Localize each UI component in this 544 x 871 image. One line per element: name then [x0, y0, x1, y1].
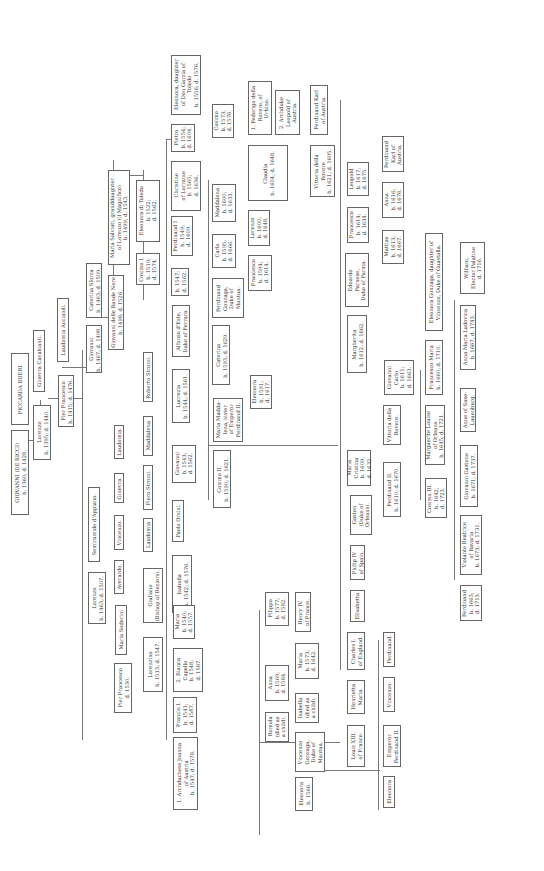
person-henrietta-maria: Henrietta Maria.	[347, 680, 365, 714]
person-paolo-orsini: Paolo Orsini.	[172, 500, 184, 542]
person-lucrezia: Lucrezia b. 1544; d. 1561.	[172, 369, 190, 423]
person-elisabetta: Elisabetta	[350, 590, 365, 622]
person-anna-1569: Anna b. 1569; d. 1584.	[265, 665, 289, 701]
connector	[259, 610, 260, 835]
person-eleonora-1591: Eleonora b. 1591; d. 1617.	[250, 375, 272, 409]
person-francis-1: Francis I. b. 1541; d. 1587.	[173, 697, 197, 733]
person-maddalena-1600: Maddalena b. 1600; d. 1633.	[212, 184, 236, 222]
connector	[208, 180, 209, 500]
connector	[82, 350, 83, 740]
person-vincenzo: Vincenzo.	[114, 515, 124, 550]
person-christine-lorraine: Christine of Lorraine b. 1565; d. 1636.	[171, 161, 201, 211]
person-ferdinand-gonzaga: Ferdinand Gonzaga, Duke of Mantua.	[212, 278, 244, 318]
person-francesco-maria: Francesco Maria b. 1660; d. 1710.	[425, 340, 443, 395]
person-giovanni-carlo: Giovanni Carlo b. 1611; d. 1663.	[384, 360, 414, 395]
person-roberto-strozzi: Roberto Strozzi.	[143, 352, 153, 402]
person-caterina-sforza: Caterina Sforza b. 1463; d. 1509.	[86, 263, 102, 318]
person-filippo: Filippo b. 1577; d. 1582.	[265, 592, 289, 626]
person-edoardo-farnese: Edoardo Farnese, Duke of Parma.	[345, 253, 369, 307]
person-pier-francesco-1530: Pier Francesco d. 1530.	[114, 663, 132, 713]
person-vincenzo-2: Vincenzo.	[383, 677, 395, 712]
person-piero-strozzi: Piero Strozzi.	[143, 465, 153, 510]
person-maria-cristina: Maria Cristina b. 1609; d. 1632.	[347, 450, 371, 486]
connector	[208, 445, 338, 446]
connector	[166, 140, 167, 740]
person-giovanni-1467: Giovanni b. 1467; d. 1498.	[86, 325, 102, 373]
person-gaston: Gaston (Duke of Orleans).	[350, 495, 372, 535]
person-charles-1: Charles I. of England.	[347, 632, 365, 670]
person-giovanni-bande-nere: Giovanni delle Bande Nere b. 1498; d. 15…	[108, 275, 124, 350]
person-pier-francesco-1415: Pier Francesco b. 1415; d. 1476.	[58, 375, 74, 427]
person-leopold-austria: 2. Archduke Leopold of Austria.	[275, 90, 300, 135]
person-philip-4: Philip IV of Spain.	[350, 545, 365, 580]
person-vittoria-rovere-2: Vittoria della Rovere.	[383, 405, 401, 445]
person-mattias: Mattias b. 1613; d. 1667.	[382, 230, 404, 264]
connector	[378, 640, 379, 810]
person-federigo-rovere: 1. Federigo della Rovere, of Urbino.	[248, 81, 272, 135]
person-lorenzo-1600: Lorenzo b. 1600; d. 1648.	[248, 210, 270, 246]
person-caterina-1593: Caterina b. 1593; d. 1629.	[212, 325, 230, 385]
person-emperor-ferdinand-2: Emperor Ferdinand II.	[383, 725, 401, 767]
person-maddalena: Maddalena	[143, 416, 153, 456]
person-ferdinand-2: Ferdinand II. b. 1610; d. 1670.	[383, 462, 401, 517]
person-isabella-child: Isabella (died as a child).	[295, 693, 319, 723]
person-violante: Violante Beatrice of Bavaria b. 1673; d.…	[460, 515, 482, 575]
person-claudia: Claudia b. 1604; d. 1648.	[248, 145, 288, 201]
person-lorenzo-1463: Lorenzo b. 1463; d. 1507.	[88, 572, 106, 624]
person-joanna-austria: 1. Archduchess Joanna of Austria b. 1547…	[173, 737, 198, 810]
person-bianca-capello: 2. Bianca Capello b. 1548; d. 1587.	[173, 648, 203, 692]
person-ferdinand-1: Ferdinand I b. 1549; d. 1609.	[171, 216, 193, 256]
person-piccarda: PICCARDA BUERI.	[11, 353, 29, 425]
person-pietro: Pietro b. 1554; d. 1604.	[171, 124, 195, 152]
person-semiramide: Semiramide d'Appiano.	[88, 487, 100, 562]
person-eleonora-2: Eleonora	[383, 776, 395, 808]
person-maria-1540: Maria b. 1540; d. 1557.	[173, 605, 195, 639]
person-leopold-1617: Leopold b. 1617; d. 1675.	[347, 162, 369, 196]
connector	[62, 367, 82, 368]
person-romola: Romola (died as a child).	[265, 712, 289, 742]
person-alfonso-este: Alfonso d'Este, Duke of Ferrara.	[172, 305, 190, 357]
person-laudomia-2: Laudomia.	[114, 425, 124, 459]
person-maria-maddalena: Maria Madda- lena, sister of Emperor Fer…	[213, 398, 243, 442]
person-vittoria-rovere-1621: Vittoria della Rovere b. 1621; d. 1695.	[310, 145, 335, 197]
connector	[454, 300, 455, 580]
person-eleonora-toledo: Eleonora di Toledo b. 1522; d. 1562.	[136, 180, 160, 242]
person-cosimo-2: Cosimo II. b. 1590; d. 1621.	[213, 450, 231, 508]
person-gian-gastone: Giovanni Gastone b. 1671; d. 1737.	[460, 445, 478, 507]
person-margherita: Margherita b. 1612; d. 1662.	[347, 315, 367, 373]
person-lorenzino: Lorenzino b. 1513; d. 1547.	[143, 637, 163, 692]
person-laudomia-acciaioli: Laudomia Acciaioli.	[57, 298, 69, 362]
person-ferdinand-1663: Ferdinand b. 1663; d. 1713.	[460, 585, 482, 621]
person-ginevra: Ginevra.	[114, 473, 124, 503]
person-maria-salviati: Maria Salviati, granddaughter of Lorenzo…	[108, 170, 130, 265]
person-marie: Maria b. 1573; d. 1642.	[295, 643, 319, 679]
person-vincenzo-gonzaga: Vincenzo Gonzaga, Duke of Mantua.	[295, 732, 325, 772]
person-francesco-1594: Francesco b. 1594; d. 1614.	[248, 255, 272, 291]
person-ferdinand: Ferdinand.	[383, 632, 395, 667]
person-giuliano: Giuliano (Bishop of Beziers).	[143, 568, 163, 623]
person-henry-4: Henry IV. of France.	[295, 592, 311, 632]
person-cosimo-1: Cosimo I. b. 1519; d. 1574.	[136, 253, 160, 285]
person-ginevra-cavalcanti: Ginevra Cavalcanti.	[33, 330, 45, 392]
person-louis-13: Louis XIII. of France.	[347, 725, 365, 767]
connector	[420, 370, 421, 500]
person-cosimo-1573: Cosimo b. 1573; d. 1576.	[212, 104, 234, 138]
person-laudomia-1: Laudomia	[143, 518, 153, 552]
person-eleonora-1566: Eleonora b. 1566.	[295, 777, 313, 811]
person-anna-maria-ludovica: Anna Maria Ludovica b. 1667; d. 1743.	[460, 305, 476, 370]
person-eleonora-gonzaga: Eleonora Gonzaga, daughter of Vincenzo, …	[425, 233, 443, 331]
person-maria-soderini: Maria Soderini	[115, 605, 127, 655]
person-anna-1616: Anna b. 1616; d. 1676.	[382, 182, 404, 218]
person-ferdinand-karl-1: Ferdinand Karl of Austria.	[310, 85, 328, 135]
person-carlo: Carlo b. 1595; d. 1666.	[212, 234, 236, 268]
person-cosimo-3: Cosimo III. b. 1642; d. 1723.	[425, 478, 447, 518]
person-giovanni-1543: Giovanni b. 1543; d. 1562.	[172, 445, 196, 483]
person-averardo: Averardo.	[114, 560, 124, 594]
person-william-palatine: William, Elector Palatine d. 1716.	[460, 242, 485, 294]
person-child-1547: b. 1547; d. 1562.	[171, 268, 189, 296]
person-anne-saxe: Anne of Saxe- Lauenburg.	[460, 388, 476, 432]
person-francesco-1614: Francesco b. 1614; d. 1634.	[347, 207, 369, 243]
person-lorenzo-1395: Lorenzo b. 1395; d. 1440.	[33, 405, 51, 460]
person-eleonora-garzia: Eleonora, daughter of Don Garzia of Tole…	[171, 55, 201, 115]
person-marguerite-orleans: Marguerite Louise of Orleans b. 1645; d.…	[425, 405, 445, 465]
